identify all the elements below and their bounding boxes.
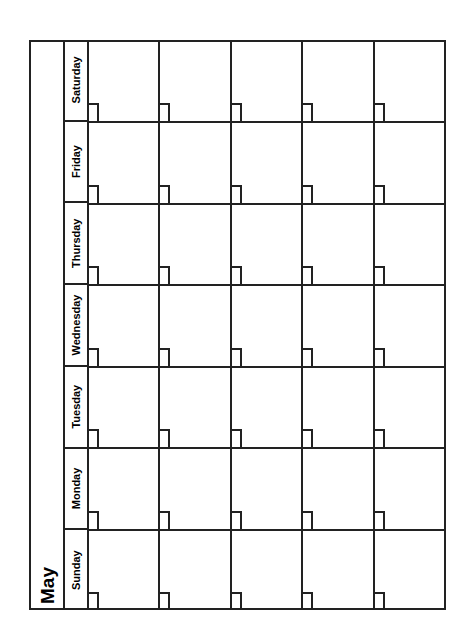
date-number-box	[89, 592, 99, 610]
weekday-tuesday: Tuesday	[65, 365, 87, 447]
weekday-monday: Monday	[65, 447, 87, 529]
day-cell	[375, 447, 446, 528]
day-cell	[303, 366, 374, 447]
date-number-box	[160, 348, 170, 366]
date-number-box	[232, 185, 242, 203]
day-cell	[232, 447, 303, 528]
day-cell	[375, 529, 446, 610]
date-number-box	[232, 429, 242, 447]
calendar-sheet: May Sunday Monday Tuesday Wednesday Thur…	[29, 40, 446, 610]
day-cell	[160, 366, 231, 447]
date-number-box	[303, 266, 313, 284]
day-cell	[303, 40, 374, 121]
day-cell	[160, 40, 231, 121]
date-number-box	[375, 511, 385, 529]
calendar-page: May Sunday Monday Tuesday Wednesday Thur…	[29, 40, 446, 610]
date-number-box	[89, 429, 99, 447]
day-cell	[89, 529, 160, 610]
day-cell	[89, 40, 160, 121]
date-number-box	[89, 266, 99, 284]
date-number-box	[375, 103, 385, 121]
day-cell	[303, 203, 374, 284]
date-number-box	[375, 592, 385, 610]
day-cell	[89, 284, 160, 365]
date-number-box	[160, 511, 170, 529]
date-number-box	[232, 592, 242, 610]
month-title: May	[37, 567, 59, 604]
weekday-sunday: Sunday	[65, 528, 87, 610]
day-cell	[303, 121, 374, 202]
day-cell	[232, 40, 303, 121]
day-cell	[375, 203, 446, 284]
day-cell	[232, 121, 303, 202]
date-number-box	[303, 348, 313, 366]
day-cell	[232, 203, 303, 284]
day-cell	[160, 529, 231, 610]
date-number-box	[375, 185, 385, 203]
date-number-box	[232, 266, 242, 284]
day-grid	[89, 40, 446, 610]
day-cell	[160, 284, 231, 365]
date-number-box	[160, 266, 170, 284]
day-cell	[232, 529, 303, 610]
day-cell	[232, 366, 303, 447]
date-number-box	[232, 103, 242, 121]
day-cell	[160, 203, 231, 284]
date-number-box	[89, 511, 99, 529]
date-number-box	[89, 185, 99, 203]
date-number-box	[303, 429, 313, 447]
day-cell	[375, 366, 446, 447]
date-number-box	[303, 185, 313, 203]
date-number-box	[160, 429, 170, 447]
date-number-box	[375, 429, 385, 447]
weekday-friday: Friday	[65, 120, 87, 202]
weekday-header: Sunday Monday Tuesday Wednesday Thursday…	[65, 40, 89, 610]
day-cell	[89, 366, 160, 447]
day-cell	[303, 529, 374, 610]
date-number-box	[303, 103, 313, 121]
weekday-saturday: Saturday	[65, 40, 87, 120]
day-cell	[89, 447, 160, 528]
day-cell	[375, 284, 446, 365]
date-number-box	[303, 511, 313, 529]
date-number-box	[160, 185, 170, 203]
date-number-box	[303, 592, 313, 610]
day-cell	[232, 284, 303, 365]
weekday-thursday: Thursday	[65, 201, 87, 283]
date-number-box	[160, 103, 170, 121]
date-number-box	[89, 103, 99, 121]
day-cell	[89, 203, 160, 284]
date-number-box	[160, 592, 170, 610]
day-cell	[303, 447, 374, 528]
day-cell	[160, 447, 231, 528]
day-cell	[375, 121, 446, 202]
month-title-band: May	[29, 40, 65, 610]
date-number-box	[375, 266, 385, 284]
day-cell	[303, 284, 374, 365]
day-cell	[89, 121, 160, 202]
day-cell	[375, 40, 446, 121]
date-number-box	[375, 348, 385, 366]
date-number-box	[89, 348, 99, 366]
day-cell	[160, 121, 231, 202]
weekday-wednesday: Wednesday	[65, 283, 87, 365]
date-number-box	[232, 348, 242, 366]
date-number-box	[232, 511, 242, 529]
